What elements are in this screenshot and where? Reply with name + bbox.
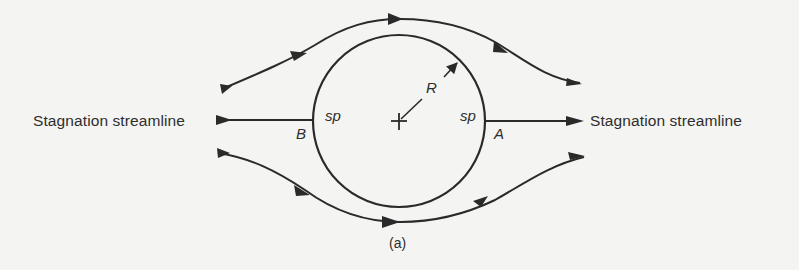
left-sp-label: sp <box>325 108 341 123</box>
diagram-canvas <box>0 0 799 270</box>
left-stagnation-streamline <box>216 115 313 125</box>
figure-caption: (a) <box>389 236 406 250</box>
flow-around-cylinder-figure: Stagnation streamline Stagnation streaml… <box>0 0 799 270</box>
radius-label: R <box>426 80 437 95</box>
right-sp-label: sp <box>460 108 476 123</box>
upper-streamline <box>220 13 582 94</box>
point-b-label: B <box>296 126 306 141</box>
right-stagnation-label: Stagnation streamline <box>590 113 742 129</box>
lower-streamline <box>217 148 585 228</box>
point-a-label: A <box>494 126 504 141</box>
left-stagnation-label: Stagnation streamline <box>33 113 185 129</box>
